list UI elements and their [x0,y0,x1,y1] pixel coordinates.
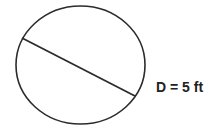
circle-outline [16,6,145,124]
diameter-label: D = 5 ft [156,79,203,95]
circle-diagram [0,0,210,127]
diameter-line [22,38,135,96]
diagram-canvas: D = 5 ft [0,0,210,127]
